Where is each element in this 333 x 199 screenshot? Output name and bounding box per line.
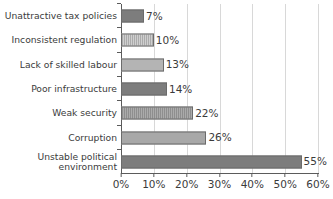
bar-value-label: 13% xyxy=(166,59,189,70)
x-tick-0: 0% xyxy=(113,173,130,191)
y-tick-mark xyxy=(117,76,121,77)
x-tick-label: 0% xyxy=(113,178,130,191)
category-label: Inconsistent regulation xyxy=(0,35,121,45)
bar-value-label: 14% xyxy=(169,84,192,95)
y-tick-mark xyxy=(117,52,121,53)
bar-unstable-political-environment: 55% xyxy=(121,155,302,168)
x-tick-mark xyxy=(186,173,187,177)
bar-weak-security: 22% xyxy=(121,107,193,120)
x-tick-mark xyxy=(252,173,253,177)
bar-value-label: 55% xyxy=(304,156,327,167)
x-tick-label: 20% xyxy=(175,178,198,191)
bar-unattractive-tax-policies: 7% xyxy=(121,10,144,23)
x-tick-40: 40% xyxy=(241,173,264,191)
bar-poor-infrastructure: 14% xyxy=(121,83,167,96)
bar-row: Corruption 26% xyxy=(121,126,318,150)
plot-area: Unattractive tax policies 7% Inconsisten… xyxy=(121,4,318,174)
bar-row: Inconsistent regulation 10% xyxy=(121,28,318,52)
y-tick-mark xyxy=(117,100,121,101)
x-tick-60: 60% xyxy=(306,173,329,191)
y-tick-mark xyxy=(117,3,121,4)
x-tick-mark xyxy=(219,173,220,177)
bar-row: Unattractive tax policies 7% xyxy=(121,4,318,28)
x-tick-mark xyxy=(120,173,121,177)
bar-value-label: 22% xyxy=(195,108,218,119)
bar-inconsistent-regulation: 10% xyxy=(121,34,154,47)
x-tick-20: 20% xyxy=(175,173,198,191)
bar-value-label: 10% xyxy=(156,35,179,46)
x-tick-30: 30% xyxy=(208,173,231,191)
x-tick-10: 10% xyxy=(142,173,165,191)
bar-corruption: 26% xyxy=(121,131,206,144)
bar-row: Lack of skilled labour 13% xyxy=(121,53,318,77)
x-tick-label: 30% xyxy=(208,178,231,191)
bar-value-label: 7% xyxy=(146,11,163,22)
x-tick-mark xyxy=(318,173,319,177)
x-tick-label: 40% xyxy=(241,178,264,191)
category-label: Unstable political environment xyxy=(0,152,121,173)
bar-lack-of-skilled-labour: 13% xyxy=(121,58,164,71)
gridline-60 xyxy=(318,4,319,174)
category-label: Poor infrastructure xyxy=(0,84,121,94)
category-label: Lack of skilled labour xyxy=(0,60,121,70)
category-label: Corruption xyxy=(0,132,121,142)
x-tick-label: 60% xyxy=(306,178,329,191)
x-tick-50: 50% xyxy=(274,173,297,191)
category-label: Unattractive tax policies xyxy=(0,11,121,21)
bar-value-label: 26% xyxy=(208,132,231,143)
x-tick-label: 50% xyxy=(274,178,297,191)
x-tick-label: 10% xyxy=(142,178,165,191)
x-tick-mark xyxy=(153,173,154,177)
bar-chart: Unattractive tax policies 7% Inconsisten… xyxy=(0,0,333,199)
category-label: Weak security xyxy=(0,108,121,118)
y-tick-mark xyxy=(117,125,121,126)
bar-row: Weak security 22% xyxy=(121,101,318,125)
x-tick-mark xyxy=(285,173,286,177)
x-axis-ticks: 0% 10% 20% 30% 40% 50% 60% xyxy=(121,173,318,195)
y-tick-mark xyxy=(117,149,121,150)
y-tick-mark xyxy=(117,27,121,28)
bar-row: Poor infrastructure 14% xyxy=(121,77,318,101)
bar-row: Unstable political environment 55% xyxy=(121,150,318,174)
